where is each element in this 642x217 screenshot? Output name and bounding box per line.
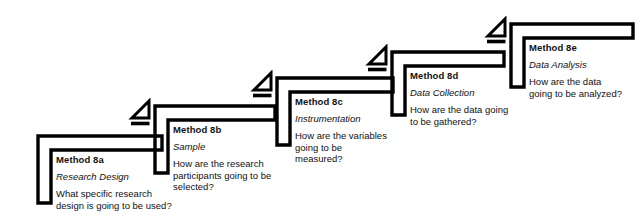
step-question-8e: How are the data going to be analyzed?: [529, 76, 627, 99]
staircase-flowchart: Method 8a Research Design What specific …: [0, 0, 642, 217]
step-question-8c: How are the variables going to be measur…: [295, 130, 387, 165]
step-text-8e: Method 8e Data Analysis How are the data…: [529, 41, 627, 99]
flow-step-8b[interactable]: Method 8b Sample How are the research pa…: [128, 98, 263, 178]
flow-step-8e[interactable]: Method 8e Data Analysis How are the data…: [484, 16, 639, 96]
step-question-8a: What specific research design is going t…: [56, 188, 178, 211]
step-subtitle-8e: Data Analysis: [529, 58, 627, 71]
step-question-8b: How are the research participants going …: [173, 158, 285, 193]
step-question-8d: How are the data going to be gathered?: [410, 104, 510, 127]
step-title-8e: Method 8e: [529, 41, 627, 54]
